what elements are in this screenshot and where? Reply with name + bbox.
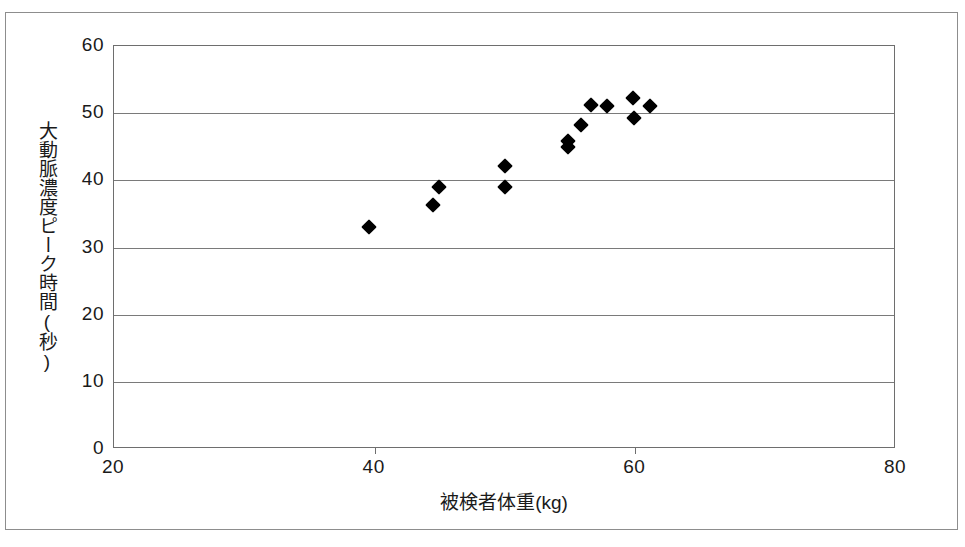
- y-tick-label-50: 50: [82, 101, 104, 123]
- gridline-y-20: [114, 315, 894, 316]
- x-tick-label-60: 60: [623, 456, 645, 478]
- x-tick-60: [635, 447, 636, 454]
- y-axis-tick-labels: 0102030405060: [46, 45, 104, 448]
- gridline-y-50: [114, 113, 894, 114]
- y-tick-label-20: 20: [82, 303, 104, 325]
- x-tick-label-40: 40: [363, 456, 385, 478]
- figure-frame: 大動脈濃度ピーク時間(秒) 0102030405060 20406080 被検者…: [5, 12, 958, 530]
- data-point: [573, 117, 589, 133]
- data-point: [431, 179, 447, 195]
- y-tick-label-30: 30: [82, 236, 104, 258]
- data-point: [642, 99, 658, 115]
- data-point: [497, 179, 513, 195]
- y-tick-label-60: 60: [82, 34, 104, 56]
- y-tick-label-40: 40: [82, 168, 104, 190]
- data-point: [426, 197, 442, 213]
- x-axis-tick-labels: 20406080: [113, 456, 895, 482]
- y-tick-label-10: 10: [82, 370, 104, 392]
- data-point: [497, 158, 513, 174]
- data-point: [583, 97, 599, 113]
- x-tick-40: [375, 447, 376, 454]
- x-tick-label-20: 20: [102, 456, 124, 478]
- data-point: [625, 90, 641, 106]
- gridline-y-30: [114, 248, 894, 249]
- data-point: [599, 98, 615, 114]
- data-point: [362, 220, 378, 236]
- x-tick-label-80: 80: [884, 456, 906, 478]
- scatter-chart: 大動脈濃度ピーク時間(秒) 0102030405060 20406080 被検者…: [6, 13, 959, 531]
- plot-area: [113, 45, 895, 448]
- x-axis-title: 被検者体重(kg): [113, 487, 895, 514]
- gridline-y-10: [114, 382, 894, 383]
